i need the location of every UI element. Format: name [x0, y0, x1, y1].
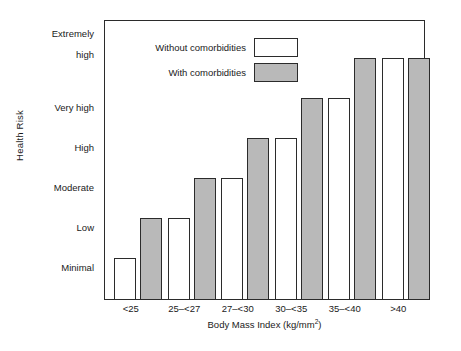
y-tick-line1: Minimal: [61, 262, 94, 273]
x-axis-title-base: Body Mass Index (kg/mm: [208, 319, 315, 330]
bar-group: [380, 20, 434, 300]
y-tick-high: High: [4, 132, 100, 153]
legend-item-without-comorbidities: Without comorbidities: [118, 36, 298, 58]
y-tick-low: Low: [4, 212, 100, 233]
x-tick-label: >40: [363, 303, 433, 314]
bar-with-comorbidities[interactable]: [301, 98, 323, 300]
y-tick-line2: high: [76, 49, 94, 60]
bar-without-comorbidities[interactable]: [275, 138, 297, 300]
y-tick-very-high: Very high: [4, 92, 100, 113]
bar-without-comorbidities[interactable]: [168, 218, 190, 300]
y-tick-moderate: Moderate: [4, 172, 100, 193]
y-tick-extremely-high: Extremely high: [4, 18, 100, 60]
y-tick-line1: High: [74, 142, 94, 153]
legend-item-with-comorbidities: With comorbidities: [118, 61, 298, 83]
legend-swatch-with-icon: [254, 63, 298, 82]
y-tick-line1: Low: [77, 222, 94, 233]
y-tick-line1: Extremely: [52, 28, 94, 39]
y-tick-line1: Moderate: [54, 182, 94, 193]
x-axis-title-tail: ): [318, 319, 321, 330]
legend-label-with: With comorbidities: [168, 67, 246, 78]
y-tick-line1: Very high: [54, 102, 94, 113]
bar-with-comorbidities[interactable]: [247, 138, 269, 300]
bar-without-comorbidities[interactable]: [382, 58, 404, 300]
bar-group: [326, 20, 380, 300]
legend-label-without: Without comorbidities: [155, 42, 246, 53]
bar-without-comorbidities[interactable]: [114, 258, 136, 300]
bar-with-comorbidities[interactable]: [140, 218, 162, 300]
x-axis-title: Body Mass Index (kg/mm2): [104, 318, 425, 330]
bar-without-comorbidities[interactable]: [221, 178, 243, 300]
legend-swatch-without-icon: [254, 38, 298, 57]
y-tick-minimal: Minimal: [4, 252, 100, 273]
bar-with-comorbidities[interactable]: [354, 58, 376, 300]
y-axis-tick-labels: Extremely high Very high High Moderate L…: [0, 0, 100, 351]
bar-with-comorbidities[interactable]: [408, 58, 430, 300]
bmi-health-risk-chart: Health Risk Extremely high Very high Hig…: [0, 0, 461, 351]
bar-without-comorbidities[interactable]: [328, 98, 350, 300]
legend: Without comorbidities With comorbidities: [118, 36, 298, 86]
bar-with-comorbidities[interactable]: [194, 178, 216, 300]
